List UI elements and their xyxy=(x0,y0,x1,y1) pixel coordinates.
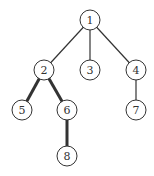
node-1: 1 xyxy=(80,10,100,30)
tree-diagram: 12345678 xyxy=(0,0,154,176)
node-8: 8 xyxy=(57,146,77,166)
node-label: 2 xyxy=(41,64,48,77)
node-5: 5 xyxy=(12,100,32,120)
node-label: 3 xyxy=(87,64,94,77)
node-2: 2 xyxy=(34,60,54,80)
node-7: 7 xyxy=(126,100,146,120)
node-label: 7 xyxy=(133,104,140,117)
node-label: 1 xyxy=(87,14,94,27)
node-label: 8 xyxy=(64,150,71,163)
node-6: 6 xyxy=(57,100,77,120)
edges xyxy=(22,20,136,156)
node-label: 5 xyxy=(19,104,26,117)
node-label: 6 xyxy=(64,104,71,117)
node-label: 4 xyxy=(133,64,140,77)
node-3: 3 xyxy=(80,60,100,80)
node-4: 4 xyxy=(126,60,146,80)
nodes: 12345678 xyxy=(12,10,146,166)
